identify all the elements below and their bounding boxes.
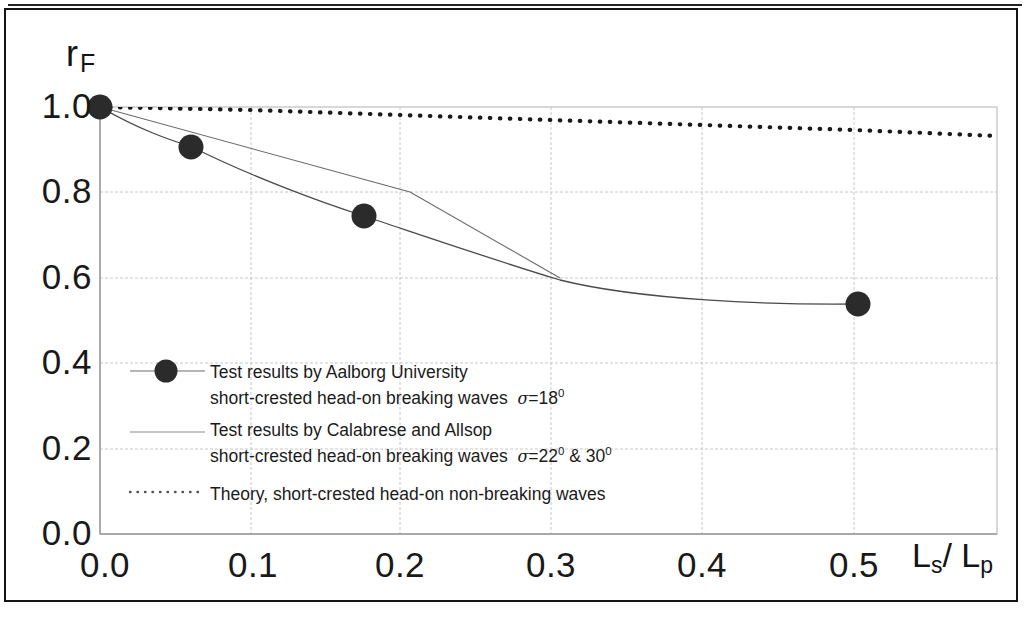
x-axis-title-slash: / L bbox=[942, 536, 980, 574]
x-axis-title-sub-s: s bbox=[931, 552, 943, 578]
sigma-symbol: σ bbox=[517, 389, 528, 408]
x-axis-title-sub-p: p bbox=[980, 552, 993, 578]
y-axis-title-subscript: F bbox=[80, 49, 95, 77]
series-calabrese-line bbox=[100, 107, 560, 278]
x-tick-label-0.1: 0.1 bbox=[203, 545, 303, 585]
y-tick-label-0.2: 0.2 bbox=[0, 428, 92, 468]
x-tick-label-0.3: 0.3 bbox=[501, 545, 601, 585]
legend-entry-theory: Theory, short-crested head-on non-breaki… bbox=[210, 484, 606, 505]
legend-entry-calabrese-line1: Test results by Calabrese and Allsop bbox=[210, 420, 612, 441]
data-point-markers bbox=[88, 95, 871, 317]
y-tick-label-0.6: 0.6 bbox=[0, 257, 92, 297]
series-theory-dotted bbox=[100, 107, 997, 136]
data-point bbox=[846, 292, 871, 317]
y-axis-title: rF bbox=[66, 33, 93, 75]
horizontal-gridlines bbox=[100, 192, 997, 449]
legend-entry-calabrese: Test results by Calabrese and Allsop sho… bbox=[210, 420, 612, 467]
degree-superscript-2: 0 bbox=[605, 445, 611, 457]
legend-entry-calabrese-amp: & 30 bbox=[564, 446, 605, 466]
x-tick-label-0.5: 0.5 bbox=[804, 545, 904, 585]
legend-entry-aalborg-line1: Test results by Aalborg University bbox=[210, 362, 564, 383]
legend-entry-calabrese-line2: short-crested head-on breaking waves σ=2… bbox=[210, 441, 612, 467]
legend-markers bbox=[130, 360, 205, 493]
vertical-gridlines bbox=[251, 107, 854, 534]
legend-entry-theory-line1: Theory, short-crested head-on non-breaki… bbox=[210, 484, 606, 505]
y-axis-title-main: r bbox=[66, 33, 78, 74]
y-tick-label-0.8: 0.8 bbox=[0, 171, 92, 211]
sigma-symbol: σ bbox=[517, 447, 528, 466]
x-axis-title: Ls/ Lp bbox=[912, 536, 993, 575]
x-tick-label-0.2: 0.2 bbox=[350, 545, 450, 585]
x-axis-title-main: L bbox=[912, 536, 931, 574]
x-tick-label-0.4: 0.4 bbox=[652, 545, 752, 585]
legend-entry-aalborg-value: =18 bbox=[528, 388, 558, 408]
legend-entry-calabrese-line2-text: short-crested head-on breaking waves bbox=[210, 446, 508, 466]
legend-entry-aalborg-line2: short-crested head-on breaking waves σ=1… bbox=[210, 383, 564, 409]
data-point bbox=[352, 204, 377, 229]
data-point bbox=[179, 135, 204, 160]
series-aalborg-curve bbox=[100, 107, 858, 304]
y-tick-label-1.0: 1.0 bbox=[0, 86, 92, 126]
axis-spines bbox=[100, 107, 997, 534]
x-tick-label-0.0: 0.0 bbox=[55, 545, 155, 585]
plot-frame bbox=[100, 107, 997, 534]
y-tick-label-0.4: 0.4 bbox=[0, 342, 92, 382]
figure-page: rF 1.0 0.8 0.6 0.4 0.2 0.0 0.0 0.1 0.2 0… bbox=[0, 0, 1025, 622]
legend-entry-aalborg-line2-text: short-crested head-on breaking waves bbox=[210, 388, 508, 408]
chart-canvas bbox=[0, 0, 1025, 622]
legend-entry-aalborg: Test results by Aalborg University short… bbox=[210, 362, 564, 409]
degree-superscript: 0 bbox=[558, 387, 564, 399]
legend-marker-circle-aalborg bbox=[155, 360, 178, 383]
legend-entry-calabrese-value1: =22 bbox=[528, 446, 558, 466]
